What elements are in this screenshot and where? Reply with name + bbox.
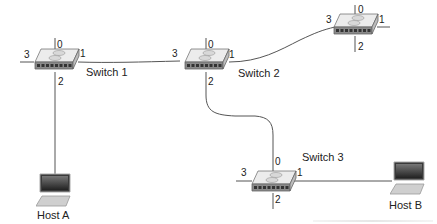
switch-1-icon[interactable] <box>31 47 83 73</box>
s3-port-1-label: 1 <box>297 168 303 178</box>
s3-port-0-label: 0 <box>275 157 281 167</box>
s4-port-2-label: 2 <box>358 42 364 52</box>
s2-port-3-label: 3 <box>172 49 178 59</box>
host-a-label: Host A <box>37 210 69 221</box>
s2-port-2-label: 2 <box>208 77 214 87</box>
bottom-divider <box>313 220 433 222</box>
s4-port-3-label: 3 <box>326 15 332 25</box>
host-b-computer-icon[interactable] <box>390 160 430 200</box>
switch-3-label: Switch 3 <box>302 152 344 163</box>
switch-top-right-icon[interactable] <box>330 12 382 38</box>
s1-port-3-label: 3 <box>24 50 30 60</box>
s4-port-0-label: 0 <box>358 5 364 15</box>
s4-port-1-label: 1 <box>379 15 385 25</box>
s2-port-1-label: 1 <box>229 50 235 60</box>
link-s2-s3 <box>206 72 273 180</box>
switch-2-icon[interactable] <box>181 47 233 73</box>
switch-2-label: Switch 2 <box>238 68 280 79</box>
s1-port-0-label: 0 <box>57 40 63 50</box>
link-s2-s4 <box>229 27 335 62</box>
link-s1-s2 <box>78 61 180 62</box>
switch-1-label: Switch 1 <box>86 67 128 78</box>
s3-port-3-label: 3 <box>241 168 247 178</box>
switch-3-icon[interactable] <box>248 169 300 195</box>
s3-port-2-label: 2 <box>275 195 281 205</box>
host-a-computer-icon[interactable] <box>36 172 76 212</box>
s1-port-2-label: 2 <box>58 77 64 87</box>
s2-port-0-label: 0 <box>208 40 214 50</box>
host-b-label: Host B <box>389 200 422 211</box>
s1-port-1-label: 1 <box>80 49 86 59</box>
